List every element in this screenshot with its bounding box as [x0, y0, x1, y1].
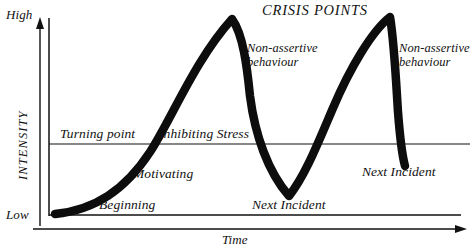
- crisis-points-diagram: CRISIS POINTS High Low INTENSITY Time Tu…: [0, 0, 475, 251]
- label-non-assertive-behaviour-1: Non-assertive behaviour: [247, 41, 318, 69]
- y-axis-low-label: Low: [6, 208, 29, 223]
- label-turning-point: Turning point: [60, 126, 135, 141]
- label-inhibiting-stress: Inhibiting Stress: [159, 126, 249, 141]
- label-non-assertive-behaviour-1-line2: behaviour: [247, 55, 318, 69]
- label-motivating: Motivating: [133, 166, 193, 181]
- chart-title: CRISIS POINTS: [262, 2, 368, 18]
- stress-intensity-curve: [55, 17, 405, 214]
- y-axis-title: INTENSITY: [16, 110, 30, 180]
- y-axis-high-label: High: [6, 8, 32, 23]
- label-next-incident-1: Next Incident: [252, 197, 326, 212]
- label-non-assertive-behaviour-2: Non-assertive behaviour: [399, 41, 470, 69]
- y-axis-arrow: [36, 17, 44, 226]
- x-axis-arrow: [33, 225, 467, 233]
- label-beginning: Beginning: [99, 197, 155, 212]
- label-non-assertive-behaviour-2-line2: behaviour: [399, 55, 470, 69]
- x-axis-title: Time: [222, 233, 248, 248]
- label-next-incident-2: Next Incident: [362, 164, 436, 179]
- label-non-assertive-behaviour-2-line1: Non-assertive: [399, 41, 470, 55]
- label-non-assertive-behaviour-1-line1: Non-assertive: [247, 41, 318, 55]
